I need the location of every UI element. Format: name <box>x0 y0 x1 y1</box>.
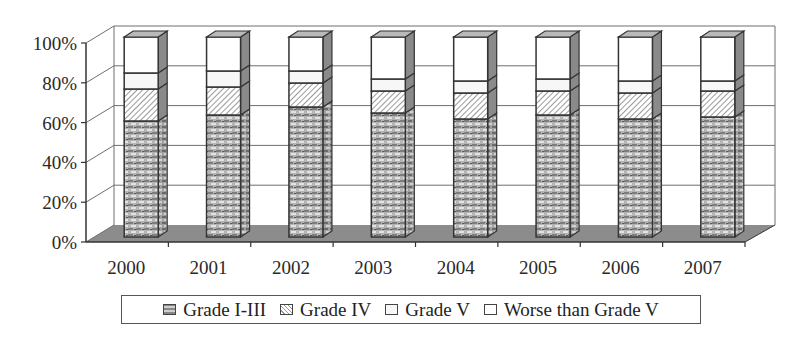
bar-2007 <box>701 31 744 237</box>
x-tick-label: 2003 <box>354 257 392 278</box>
legend-label: Grade I-III <box>183 299 266 321</box>
bar-side-Worse than Grade V <box>405 31 414 79</box>
legend-label: Grade IV <box>300 299 371 321</box>
bar-segment <box>701 37 735 81</box>
chart-floor <box>86 225 775 242</box>
bar-segment <box>124 73 158 89</box>
bar-segment <box>371 79 405 91</box>
bar-segment <box>371 37 405 79</box>
bar-2002 <box>289 31 332 237</box>
bar-segment <box>618 37 652 81</box>
chart-grid <box>86 26 775 242</box>
y-tick-label: 20% <box>42 192 77 213</box>
bar-segment <box>701 81 735 91</box>
bar-segment <box>124 37 158 73</box>
bar-segment <box>124 89 158 121</box>
legend-item-grade-i-iii: Grade I-III <box>163 299 266 321</box>
x-tick-label: 2001 <box>190 257 228 278</box>
side-gridline <box>86 145 114 162</box>
bar-side-Grade I-III <box>735 111 744 237</box>
bar-segment <box>701 117 735 237</box>
x-tick-label: 2006 <box>601 257 639 278</box>
legend-item-worse-than-grade-v: Worse than Grade V <box>484 299 659 321</box>
bar-side-Grade I-III <box>241 109 250 237</box>
chart-legend: Grade I-III Grade IV Grade V Worse than … <box>121 295 701 324</box>
x-tick-label: 2007 <box>684 257 722 278</box>
bar-side-Grade I-III <box>405 107 414 237</box>
bar-segment <box>207 71 241 87</box>
bar-side-Grade I-III <box>652 113 661 237</box>
bar-segment <box>371 113 405 237</box>
bar-side-Worse than Grade V <box>158 31 167 73</box>
side-gridline <box>86 185 114 202</box>
bar-segment <box>536 91 570 115</box>
legend-label: Grade V <box>405 299 470 321</box>
bar-segment <box>207 87 241 115</box>
x-tick-label: 2004 <box>437 257 476 278</box>
bar-segment <box>536 37 570 79</box>
x-tick-label: 2005 <box>519 257 557 278</box>
bar-side-Worse than Grade V <box>652 31 661 81</box>
chart-bars <box>124 31 744 237</box>
bar-segment <box>618 119 652 237</box>
bar-2001 <box>207 31 250 237</box>
y-tick-label: 80% <box>42 73 77 94</box>
bar-segment <box>371 91 405 113</box>
side-gridline <box>86 26 114 43</box>
legend-swatch-icon <box>385 304 398 315</box>
bar-segment <box>618 93 652 119</box>
legend-swatch-icon <box>484 304 497 315</box>
bar-side-Worse than Grade V <box>241 31 250 71</box>
bar-2005 <box>536 31 579 237</box>
bar-side-Worse than Grade V <box>323 31 332 71</box>
bar-segment <box>454 81 488 93</box>
legend-swatch-icon <box>280 304 293 315</box>
bar-segment <box>454 37 488 81</box>
x-tick-label: 2002 <box>272 257 310 278</box>
bar-2004 <box>454 31 497 237</box>
bar-segment <box>536 115 570 237</box>
bar-segment <box>207 37 241 71</box>
bar-side-Grade I-III <box>323 101 332 237</box>
stacked-bar-chart: 200020012002200320042005200620070%20%40%… <box>0 0 799 295</box>
bar-side-Grade I-III <box>570 109 579 237</box>
bar-segment <box>701 91 735 117</box>
legend-label: Worse than Grade V <box>504 299 659 321</box>
bar-segment <box>289 107 323 237</box>
bar-segment <box>618 81 652 93</box>
y-tick-label: 100% <box>33 33 78 54</box>
bar-segment <box>536 79 570 91</box>
bar-segment <box>454 119 488 237</box>
legend-item-grade-iv: Grade IV <box>280 299 371 321</box>
y-tick-label: 40% <box>42 152 77 173</box>
legend-item-grade-v: Grade V <box>385 299 470 321</box>
bar-segment <box>289 83 323 107</box>
bar-segment <box>289 37 323 71</box>
y-tick-label: 60% <box>42 113 77 134</box>
bar-side-Grade I-III <box>158 115 167 237</box>
bar-segment <box>454 93 488 119</box>
bar-side-Worse than Grade V <box>570 31 579 79</box>
x-tick-label: 2000 <box>107 257 145 278</box>
bar-segment <box>289 71 323 83</box>
bar-2000 <box>124 31 167 237</box>
bar-side-Worse than Grade V <box>735 31 744 81</box>
bar-side-Grade I-III <box>488 113 497 237</box>
bar-segment <box>124 121 158 237</box>
y-tick-label: 0% <box>52 232 78 253</box>
bar-segment <box>207 115 241 237</box>
legend-swatch-icon <box>163 304 176 315</box>
side-gridline <box>86 66 114 83</box>
bar-2003 <box>371 31 414 237</box>
bar-side-Worse than Grade V <box>488 31 497 81</box>
bar-2006 <box>618 31 661 237</box>
side-gridline <box>86 106 114 123</box>
